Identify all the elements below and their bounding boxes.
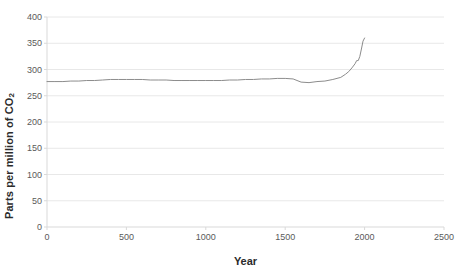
plot-area [0,0,460,276]
gridline-group [47,17,444,201]
data-series-line [47,38,365,83]
co2-line-chart: Parts per million of CO2 050100150200250… [0,0,460,276]
tick-mark-group [44,17,444,230]
